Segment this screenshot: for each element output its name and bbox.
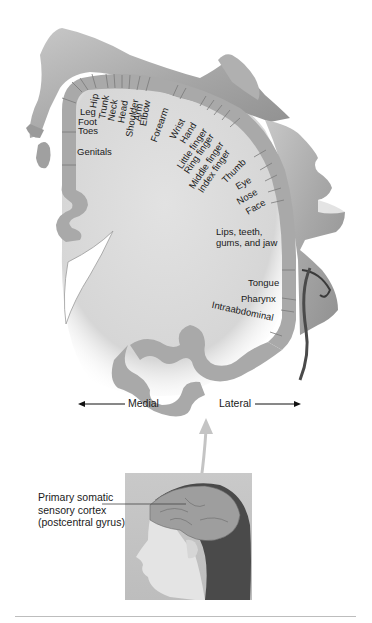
medial-arrow	[78, 401, 125, 407]
caption-line-2: sensory cortex	[38, 504, 125, 517]
caption-line-1: Primary somatic	[38, 491, 125, 504]
caption-line-3: (postcentral gyrus)	[38, 516, 125, 529]
label-genitals: Genitals	[77, 147, 112, 157]
caption-primary-somatic-sensory-cortex: Primary somatic sensory cortex (postcent…	[38, 491, 125, 529]
head-inset	[125, 473, 252, 600]
medial-label: Medial	[128, 397, 159, 409]
horizontal-rule	[15, 616, 356, 617]
label-lips-line2: gums, and jaw	[216, 238, 277, 248]
label-lips-line1: Lips, teeth,	[216, 227, 262, 237]
homunculus-genitals	[36, 142, 51, 168]
label-toes: Toes	[78, 126, 98, 136]
lateral-label: Lateral	[219, 397, 251, 409]
homunculus-illustration	[0, 0, 372, 623]
pointer-arrow	[199, 418, 213, 480]
label-tongue: Tongue	[248, 278, 279, 288]
label-pharynx: Pharynx	[241, 294, 276, 304]
lateral-arrow	[255, 401, 301, 407]
